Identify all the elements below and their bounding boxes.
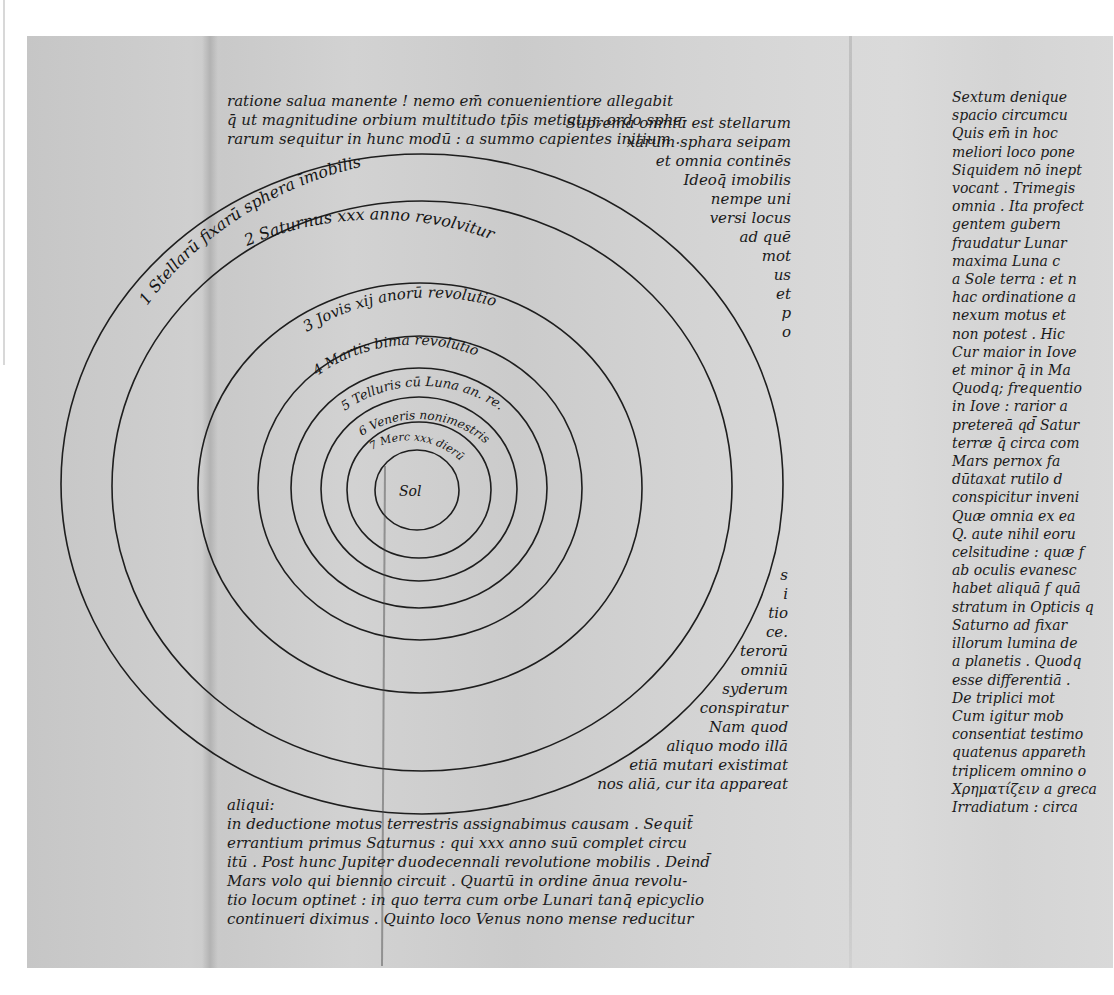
lower-margin-text: s i tio ce. terorū omniū syderum conspir… [597, 566, 788, 794]
text-line: nempe uni [566, 190, 791, 209]
text-line: syderum [597, 680, 788, 699]
text-line: et [566, 285, 791, 304]
right-of-diagram-text: Suprema omniū est stellarum xarum sphara… [566, 114, 791, 342]
text-line: us [566, 266, 791, 285]
text-line: ratione salua manente ! nemo em̄ conueni… [227, 92, 687, 111]
text-line: Suprema omniū est stellarum [566, 114, 791, 133]
text-line: nos aliā, cur ita appareat [597, 775, 788, 794]
text-line: s [597, 566, 788, 585]
svg-text:3 Jovis xij anorū revolutio: 3 Jovis xij anorū revolutio [300, 283, 499, 335]
text-line: habet aliquā f quā [952, 579, 1097, 597]
text-line: terræ q̄ circa com [952, 434, 1097, 452]
text-line: ce. [597, 623, 788, 642]
text-line: aliquo modo illā [597, 737, 788, 756]
text-line: tio [597, 604, 788, 623]
text-line: terorū [597, 642, 788, 661]
orbit-label-7: 7 Merc xxx dierū [367, 430, 466, 463]
text-line: ad quē [566, 228, 791, 247]
text-line: Nam quod [597, 718, 788, 737]
text-line: continueri diximus . Quinto loco Venus n… [227, 910, 710, 929]
text-line: conspicitur inveni [952, 488, 1097, 506]
text-line: non potest . Hic [952, 325, 1097, 343]
text-line: gentem gubern [952, 215, 1097, 233]
text-line: De triplici mot [952, 689, 1097, 707]
text-line: Cur maior in Iove [952, 343, 1097, 361]
text-line: itū . Post hunc Jupiter duodecennali rev… [227, 853, 710, 872]
text-line: p [566, 304, 791, 323]
orbit-label-2: 2 Saturnus xxx anno revolvitur [240, 205, 498, 251]
text-line: Quæ omnia ex ea [952, 507, 1097, 525]
text-line: xarum sphara seipam [566, 133, 791, 152]
text-line: mot [566, 247, 791, 266]
text-line: et omnia continēs [566, 152, 791, 171]
text-line: Q. aute nihil eoru [952, 525, 1097, 543]
text-line: Quodq; frequentio [952, 379, 1097, 397]
text-line: Mars volo qui biennio circuit . Quartū i… [227, 872, 710, 891]
bottom-paragraph: aliqui: in deductione motus terrestris a… [227, 796, 710, 929]
text-line: hac ordinatione a [952, 288, 1097, 306]
text-line: in deductione motus terrestris assignabi… [227, 815, 710, 834]
text-line: meliori loco pone [952, 143, 1097, 161]
sun-label: Sol [399, 483, 422, 499]
text-line: versi locus [566, 209, 791, 228]
text-line: Ideoq̄ imobilis [566, 171, 791, 190]
text-line: spacio circumcu [952, 106, 1097, 124]
text-line: in Iove : rarior a [952, 397, 1097, 415]
text-line: celsitudine : quæ f [952, 543, 1097, 561]
text-line: Saturno ad fixar [952, 616, 1097, 634]
orbit-label-4: 4 Martis bima revolutio [309, 332, 481, 379]
text-line: a Sole terra : et n [952, 270, 1097, 288]
svg-text:7 Merc xxx dierū: 7 Merc xxx dierū [367, 430, 466, 463]
text-line: aliqui: [227, 796, 710, 815]
text-line: stratum in Opticis q [952, 598, 1097, 616]
svg-text:4 Martis bima revolutio: 4 Martis bima revolutio [309, 332, 481, 379]
text-line: Quis em̄ in hoc [952, 124, 1097, 142]
text-line: Mars pernox fa [952, 452, 1097, 470]
text-line: Irradiatum : circa [952, 798, 1097, 816]
text-line: conspiratur [597, 699, 788, 718]
text-line: omniū [597, 661, 788, 680]
text-line: i [597, 585, 788, 604]
text-line: nexum motus et [952, 306, 1097, 324]
text-line: a planetis . Quodq [952, 652, 1097, 670]
text-line: errantium primus Saturnus : qui xxx anno… [227, 834, 710, 853]
orbit-label-3: 3 Jovis xij anorū revolutio [300, 283, 499, 335]
text-line: Sextum denique [952, 88, 1097, 106]
text-line: Cum igitur mob [952, 707, 1097, 725]
text-line: et minor q̄ in Ma [952, 361, 1097, 379]
text-line: vocant . Trimegis [952, 179, 1097, 197]
text-line: etiā mutari existimat [597, 756, 788, 775]
text-line: triplicem omnino o [952, 762, 1097, 780]
text-line: o [566, 323, 791, 342]
text-line: maxima Luna c [952, 252, 1097, 270]
text-line: Siquidem nō inept [952, 161, 1097, 179]
text-line: fraudatur Lunar [952, 234, 1097, 252]
svg-text:2 Saturnus xxx anno revolvitur: 2 Saturnus xxx anno revolvitur [240, 205, 498, 251]
page-edge-rule [3, 0, 5, 365]
manuscript-plate: 1 Stellarū fixarū sphera īmobilis 2 Satu… [27, 36, 1113, 968]
text-line: tio locum optinet : in quo terra cum orb… [227, 891, 710, 910]
text-line: omnia . Ita profect [952, 197, 1097, 215]
right-column-text: Sextum denique spacio circumcu Quis em̄ … [952, 88, 1097, 816]
top-caption [40, 0, 1040, 8]
text-line: esse differentiā . [952, 671, 1097, 689]
text-line: illorum lumina de [952, 634, 1097, 652]
text-line: Χρηματίζειν a greca [952, 780, 1097, 798]
text-line: dūtaxat rutilo d [952, 470, 1097, 488]
text-line: quatenus appareth [952, 743, 1097, 761]
text-line: pretereā qd̄ Satur [952, 416, 1097, 434]
text-line: consentiat testimo [952, 725, 1097, 743]
text-line: ab oculis evanesc [952, 561, 1097, 579]
